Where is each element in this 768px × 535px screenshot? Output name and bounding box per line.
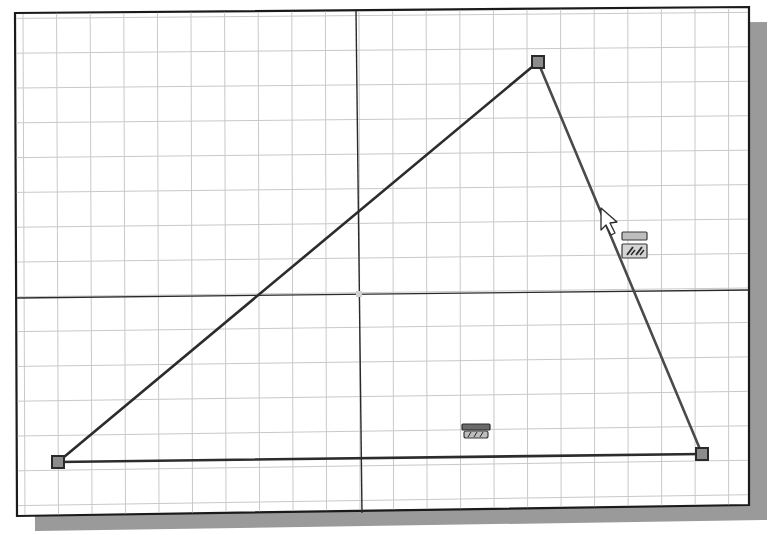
grid-line-vertical [561,10,562,507]
grid-line-vertical [527,10,528,508]
sketch-canvas[interactable] [0,0,768,535]
horizontal-constraint-icon[interactable] [462,424,490,438]
origin-point [356,291,362,297]
grid-line-vertical [493,10,494,508]
vertex-bottom-right[interactable] [696,448,708,460]
vertex-top[interactable] [532,56,544,68]
vertex-bottom-left[interactable] [52,456,64,468]
parallel-constraint-icon[interactable] [622,232,647,258]
